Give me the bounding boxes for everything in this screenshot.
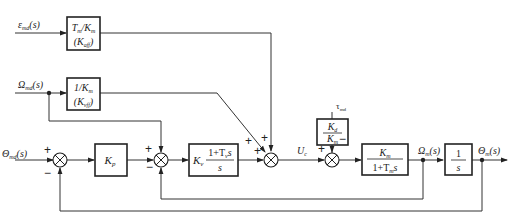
sum-junction-2	[154, 153, 168, 167]
label-epsilon-md: εmd(s)	[18, 19, 41, 31]
branch-dot-omega-m	[421, 158, 425, 162]
block-accel-feedforward: Tm/Km (Kaff)	[67, 17, 100, 50]
sum3-plus-left: +	[245, 134, 252, 148]
sum3-plus-top: +	[261, 131, 268, 145]
wires	[15, 33, 507, 211]
sum4-minus: −	[339, 132, 346, 146]
sum-junction-3	[264, 153, 278, 167]
block-motor: Km 1+Tms	[362, 144, 408, 175]
svg-text:1: 1	[456, 148, 461, 159]
sum-junction-4	[325, 153, 339, 167]
svg-text:s: s	[218, 162, 222, 173]
sum-junction-1	[53, 153, 67, 167]
label-theta-m: Θm(s)	[478, 145, 501, 157]
sum1-minus: −	[44, 166, 51, 180]
sum2-plus: +	[145, 142, 152, 156]
block-diagram: Tm/Km (Kaff) 1/Km (Kvff) Kp Kv 1+Tvs s K…	[0, 0, 519, 224]
svg-text:1+Tms: 1+Tms	[373, 162, 398, 174]
label-uc: Uc	[297, 145, 307, 157]
block-kp: Kp	[95, 144, 127, 176]
svg-text:s: s	[457, 162, 461, 173]
sum3-plus-diag: +	[254, 144, 261, 158]
vff-to-sum3-wire	[100, 93, 265, 152]
sum1-plus: +	[44, 143, 51, 157]
svg-text:1+Tvs: 1+Tvs	[208, 147, 231, 159]
sum4-plus: +	[318, 142, 325, 156]
label-omega-m: Ωm(s)	[418, 145, 441, 157]
branch-dot-theta-m	[480, 158, 484, 162]
label-omega-md: Ωmd(s)	[18, 79, 44, 91]
label-tau-md: τmd	[336, 101, 347, 112]
sum2-minus: −	[146, 160, 153, 174]
branch-dot-omega	[47, 91, 51, 95]
label-theta-md: Θmd(s)	[2, 148, 28, 160]
block-velocity-feedforward: 1/Km (Kvff)	[67, 78, 100, 110]
block-kv-pi: Kv 1+Tvs s	[189, 144, 238, 176]
block-integrator: 1 s	[445, 144, 472, 175]
